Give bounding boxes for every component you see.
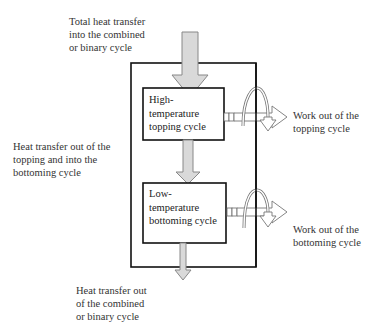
heat-between-label: Heat transfer out of the topping and int… (13, 140, 110, 179)
heat-out-arrow-icon (175, 243, 191, 280)
heat-out-label: Heat transfer out of the combined or bin… (76, 284, 147, 323)
work-bottoming-label: Work out of the bottoming cycle (293, 223, 361, 249)
heat-between-arrow-icon (176, 140, 200, 184)
work-topping-label: Work out of the topping cycle (293, 109, 359, 135)
topping-cycle-label: High- temperature topping cycle (149, 93, 206, 134)
work-bottoming-arrow-icon (227, 190, 287, 228)
heat-in-label: Total heat transfer into the combined or… (69, 15, 145, 54)
bottoming-cycle-label: Low- temperature bottoming cycle (149, 187, 217, 228)
combined-cycle-diagram: Total heat transfer into the combined or… (0, 0, 373, 327)
